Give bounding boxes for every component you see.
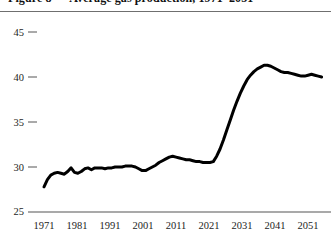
chart-figure: Figure 8 — Average gas production, 1971–… [0, 0, 331, 239]
y-tick-label-25: 25 [2, 206, 24, 217]
data-series-line [44, 65, 322, 187]
plot-area: 45 40 35 30 25 1971 1981 1991 2001 2011 … [0, 0, 331, 239]
line-chart-svg [0, 0, 331, 239]
y-tick-label-30: 30 [2, 162, 24, 173]
y-tick-label-35: 35 [2, 117, 24, 128]
y-tick-label-40: 40 [2, 72, 24, 83]
y-tick-label-45: 45 [2, 27, 24, 38]
y-axis-ticks [28, 32, 37, 167]
x-tick-label-2051: 2051 [288, 220, 328, 231]
